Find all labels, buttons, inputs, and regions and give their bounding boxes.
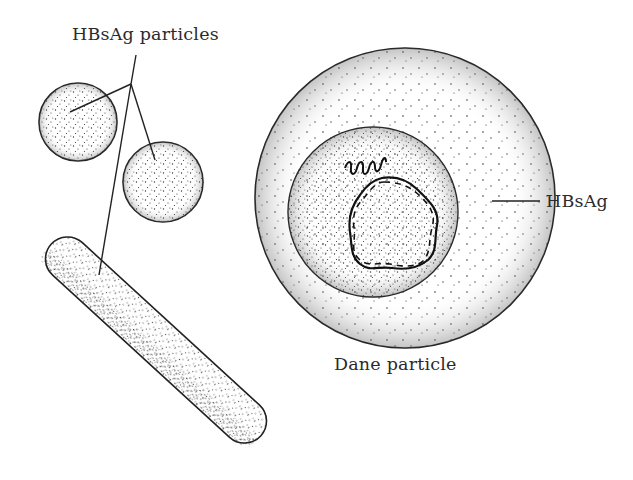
hbsag-particles-label: HBsAg particles bbox=[72, 24, 219, 44]
hbv-particles-diagram bbox=[0, 0, 633, 480]
dane-particle bbox=[255, 48, 555, 348]
spherical-hbsag-particle-2 bbox=[123, 142, 203, 222]
hbsag-label: HBsAg bbox=[546, 191, 608, 211]
dane-particle-label: Dane particle bbox=[334, 354, 457, 374]
filamentous-hbsag-particle bbox=[36, 228, 275, 452]
spherical-hbsag-particle-1 bbox=[39, 83, 117, 161]
